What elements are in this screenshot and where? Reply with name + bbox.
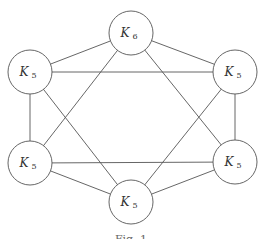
node-subscript: 6: [132, 32, 137, 41]
node-subscript: 5: [236, 71, 241, 80]
node-label: K: [19, 65, 30, 79]
node-circle: [109, 180, 153, 224]
edges-group: [30, 33, 235, 202]
node-top-right: K5: [213, 50, 257, 94]
edge-top-right-bottom: [131, 72, 235, 202]
node-label: K: [19, 156, 30, 170]
node-top-left: K5: [8, 50, 52, 94]
graph-diagram: K6K5K5K5K5K5 Fig. 1: [0, 0, 262, 239]
node-subscript: 5: [31, 71, 36, 80]
node-circle: [213, 140, 257, 184]
node-bottom-left: K5: [8, 141, 52, 185]
node-label: K: [120, 195, 131, 209]
edge-bottom-left-bottom-right: [30, 162, 235, 163]
nodes-group: K6K5K5K5K5K5: [8, 11, 257, 224]
node-circle: [109, 11, 153, 55]
node-top: K6: [109, 11, 153, 55]
node-subscript: 5: [132, 201, 137, 210]
node-subscript: 5: [236, 161, 241, 170]
node-bottom: K5: [109, 180, 153, 224]
node-label: K: [224, 65, 235, 79]
node-subscript: 5: [31, 162, 36, 171]
node-bottom-right: K5: [213, 140, 257, 184]
node-label: K: [120, 26, 131, 40]
node-circle: [213, 50, 257, 94]
node-circle: [8, 50, 52, 94]
figure-caption: Fig. 1: [115, 233, 147, 239]
node-circle: [8, 141, 52, 185]
node-label: K: [224, 155, 235, 169]
